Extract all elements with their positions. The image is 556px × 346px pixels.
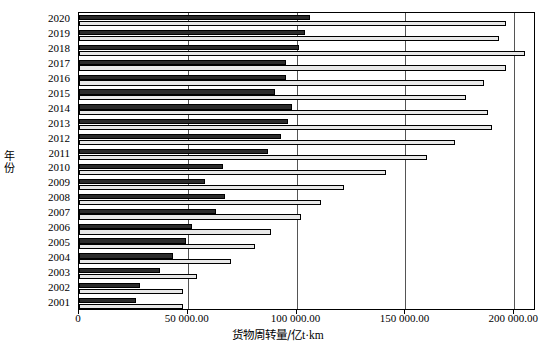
bar-group xyxy=(79,266,534,281)
bar xyxy=(79,149,268,154)
y-tick-2014: 2014 xyxy=(48,103,70,114)
y-tick-2010: 2010 xyxy=(48,162,70,173)
bar xyxy=(79,229,271,234)
y-tick-2018: 2018 xyxy=(48,43,70,54)
bar xyxy=(79,274,197,279)
y-tick-2008: 2008 xyxy=(48,192,70,203)
bar xyxy=(79,134,281,139)
bar xyxy=(79,298,136,303)
bar xyxy=(79,253,173,258)
y-tick-2016: 2016 xyxy=(48,73,70,84)
bar-group xyxy=(79,28,534,43)
bar-group xyxy=(79,207,534,222)
y-tick-2007: 2007 xyxy=(48,207,70,218)
x-tick-label: 100 000.00 xyxy=(271,312,321,324)
bar-group xyxy=(79,192,534,207)
y-tick-2015: 2015 xyxy=(48,88,70,99)
bar xyxy=(79,268,160,273)
bar xyxy=(79,51,525,56)
y-tick-2004: 2004 xyxy=(48,252,70,263)
bar-group xyxy=(79,162,534,177)
bar xyxy=(79,164,223,169)
bar xyxy=(79,289,183,294)
bar-group xyxy=(79,43,534,58)
y-tick-2009: 2009 xyxy=(48,177,70,188)
bar-group xyxy=(79,13,534,28)
bar xyxy=(79,36,499,41)
y-tick-2013: 2013 xyxy=(48,118,70,129)
bar xyxy=(79,89,275,94)
bar xyxy=(79,209,216,214)
bar xyxy=(79,65,506,70)
bar-group xyxy=(79,251,534,266)
bar xyxy=(79,170,386,175)
bar xyxy=(79,155,427,160)
plot-area xyxy=(78,12,535,310)
bar xyxy=(79,283,140,288)
bar-group xyxy=(79,102,534,117)
y-axis-tick-labels: 2020201920182017201620152014201320122011… xyxy=(0,12,74,310)
bar-group xyxy=(79,237,534,252)
x-tick-label: 0 xyxy=(75,312,81,324)
bar xyxy=(79,104,292,109)
x-tick-label: 150 000.00 xyxy=(380,312,430,324)
y-tick-2020: 2020 xyxy=(48,13,70,24)
x-tick-label: 200 000.00 xyxy=(488,312,538,324)
bar xyxy=(79,75,286,80)
bar xyxy=(79,15,310,20)
y-tick-2019: 2019 xyxy=(48,28,70,39)
bar xyxy=(79,80,484,85)
plot-inner xyxy=(79,13,534,309)
bar xyxy=(79,30,305,35)
bar xyxy=(79,21,506,26)
x-axis-title: 货物周转量/亿t·km xyxy=(0,328,556,342)
chart-root: 年份 2020201920182017201620152014201320122… xyxy=(0,0,556,346)
y-tick-2002: 2002 xyxy=(48,282,70,293)
bar xyxy=(79,259,231,264)
y-tick-2011: 2011 xyxy=(48,148,70,159)
bar xyxy=(79,224,192,229)
y-tick-2012: 2012 xyxy=(48,133,70,144)
bar-group xyxy=(79,73,534,88)
y-tick-2001: 2001 xyxy=(48,297,70,308)
bar xyxy=(79,179,205,184)
bar xyxy=(79,214,301,219)
bar-group xyxy=(79,222,534,237)
y-tick-2006: 2006 xyxy=(48,222,70,233)
bar xyxy=(79,238,186,243)
y-tick-2017: 2017 xyxy=(48,58,70,69)
x-tick-label: 50 000.00 xyxy=(165,312,209,324)
bar xyxy=(79,110,488,115)
bar xyxy=(79,60,286,65)
bar-group xyxy=(79,132,534,147)
bar xyxy=(79,125,492,130)
bar xyxy=(79,95,466,100)
bar xyxy=(79,244,255,249)
bar-group xyxy=(79,58,534,73)
bar xyxy=(79,119,288,124)
y-tick-2005: 2005 xyxy=(48,237,70,248)
bar xyxy=(79,194,225,199)
bar xyxy=(79,304,183,309)
bar-group xyxy=(79,117,534,132)
bar-group xyxy=(79,177,534,192)
x-axis-title-main: 货物周转量/ xyxy=(232,328,291,342)
bar-group xyxy=(79,88,534,103)
x-axis-title-unit: 亿t·km xyxy=(291,329,324,341)
bar-group xyxy=(79,281,534,296)
bar xyxy=(79,45,299,50)
bar-group xyxy=(79,296,534,311)
bar xyxy=(79,185,344,190)
y-tick-2003: 2003 xyxy=(48,267,70,278)
bar-group xyxy=(79,147,534,162)
bar xyxy=(79,200,321,205)
bar xyxy=(79,140,455,145)
x-axis-tick-labels: 050 000.00100 000.00150 000.00200 000.00 xyxy=(0,312,556,328)
